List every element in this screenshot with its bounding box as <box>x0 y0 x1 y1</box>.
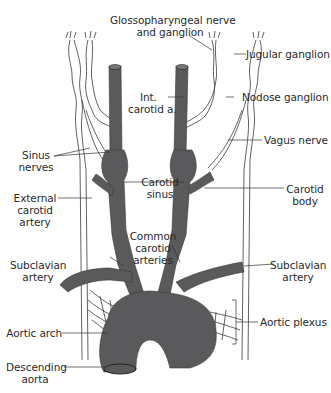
label-line: Glossopharyngeal nerve <box>110 14 230 26</box>
label-subclavian-artery-right: Subclavian artery <box>270 259 326 283</box>
label-line: Carotid <box>284 183 326 195</box>
label-int-carotid: Int. carotid a. <box>128 91 176 115</box>
label-subclavian-artery-left: Subclavian artery <box>10 259 66 283</box>
label-line: Sinus <box>16 149 56 161</box>
label-line: carotid <box>126 242 180 254</box>
label-carotid-sinus: Carotid sinus <box>134 176 186 200</box>
label-vagus-nerve: Vagus nerve <box>264 134 328 146</box>
label-line: Common <box>126 230 180 242</box>
label-line: arteries <box>126 254 180 266</box>
label-line: Carotid <box>134 176 186 188</box>
label-descending-aorta: Descending aorta <box>6 361 64 385</box>
label-aortic-plexus: Aortic plexus <box>260 316 327 328</box>
label-line: carotid <box>12 204 58 216</box>
label-aortic-arch: Aortic arch <box>0 327 62 339</box>
descending-aorta-opening <box>104 364 136 374</box>
int-carotid-opening-right <box>176 65 188 70</box>
label-line: Subclavian <box>270 259 326 271</box>
label-carotid-body: Carotid body <box>284 183 326 207</box>
int-carotid-opening-left <box>109 65 121 70</box>
label-line: External <box>12 192 58 204</box>
label-line: artery <box>10 271 66 283</box>
label-line: Int. <box>128 91 176 103</box>
label-line: Subclavian <box>10 259 66 271</box>
label-line: and ganglion <box>110 26 230 38</box>
label-nodose-ganglion: Nodose ganglion <box>242 91 328 103</box>
label-external-carotid-artery: External carotid artery <box>12 192 58 228</box>
label-line: artery <box>270 271 326 283</box>
label-sinus-nerves: Sinus nerves <box>16 149 56 173</box>
label-line: Descending <box>6 361 64 373</box>
label-line: artery <box>12 216 58 228</box>
label-glossopharyngeal-nerve: Glossopharyngeal nerve and ganglion <box>110 14 230 38</box>
carotid-aortic-diagram: Glossopharyngeal nerve and ganglion Jugu… <box>0 0 331 393</box>
label-line: aorta <box>6 373 64 385</box>
label-line: carotid a. <box>128 103 176 115</box>
label-jugular-ganglion: Jugular ganglion <box>246 48 330 60</box>
label-line: nerves <box>16 161 56 173</box>
label-common-carotid-arteries: Common carotid arteries <box>126 230 180 266</box>
label-line: sinus <box>134 188 186 200</box>
label-line: body <box>284 195 326 207</box>
